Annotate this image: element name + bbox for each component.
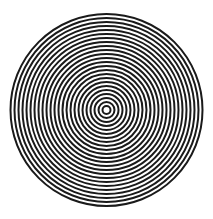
center-dot (105, 109, 107, 111)
concentric-circles-figure (0, 0, 213, 219)
rings-group (11, 14, 203, 206)
